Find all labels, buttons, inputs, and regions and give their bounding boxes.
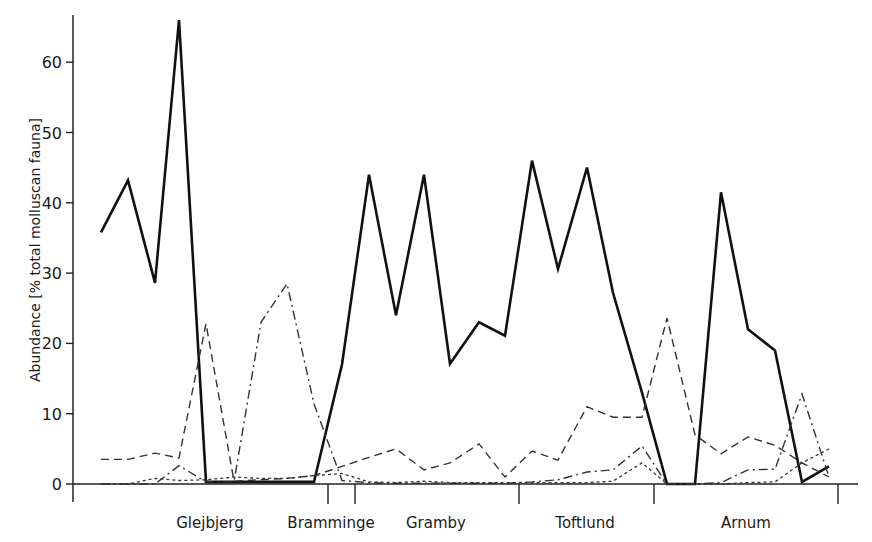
series-dash-dot — [101, 284, 829, 484]
site-label-glejbjerg: Glejbjerg — [176, 514, 244, 532]
y-tick-label: 40 — [42, 194, 62, 213]
y-tick-label: 30 — [42, 264, 62, 283]
site-label-gramby: Gramby — [406, 514, 466, 532]
y-tick-label: 10 — [42, 405, 62, 424]
series-dotted — [101, 449, 829, 484]
y-tick-label: 0 — [52, 475, 62, 494]
y-tick-label: 20 — [42, 334, 62, 353]
site-label-toftlund: Toftlund — [554, 514, 614, 532]
data-series — [101, 20, 829, 484]
site-labels: GlejbjergBrammingeGrambyToftlundArnum — [176, 514, 771, 532]
site-separator-ticks — [328, 484, 838, 504]
series-solid — [101, 20, 829, 484]
abundance-line-chart: 0102030405060 GlejbjergBrammingeGrambyTo… — [0, 0, 872, 542]
y-tick-label: 50 — [42, 124, 62, 143]
site-label-arnum: Arnum — [721, 514, 771, 532]
y-tick-label: 60 — [42, 53, 62, 72]
site-label-bramminge: Bramminge — [287, 514, 374, 532]
y-axis-ticks: 0102030405060 — [42, 53, 73, 494]
y-axis-label: Abundance [% total molluscan fauna] — [27, 118, 43, 382]
